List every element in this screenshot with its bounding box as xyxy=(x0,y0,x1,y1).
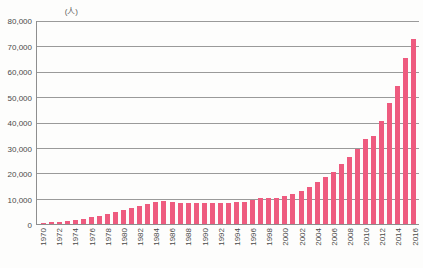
x-tick-slot: 1984 xyxy=(152,226,160,268)
bar-slot xyxy=(362,21,370,224)
bar xyxy=(411,39,416,224)
bar-slot xyxy=(79,21,87,224)
x-tick-slot: 1978 xyxy=(104,226,112,268)
bar-slot xyxy=(241,21,249,224)
x-tick-slot: 2008 xyxy=(346,226,354,268)
x-tick-slot xyxy=(209,226,217,268)
chart-page: (人) 010,00020,00030,00040,00050,00060,00… xyxy=(0,0,423,268)
bar xyxy=(234,202,239,224)
bar xyxy=(89,217,94,224)
bar xyxy=(258,198,263,224)
bar-slot xyxy=(321,21,329,224)
bar-slot xyxy=(273,21,281,224)
x-tick-slot: 2010 xyxy=(362,226,370,268)
x-tick-slot: 1980 xyxy=(120,226,128,268)
bar xyxy=(65,221,70,224)
bar-slot xyxy=(87,21,95,224)
bar xyxy=(41,223,46,224)
bar-slot xyxy=(329,21,337,224)
bar-slot xyxy=(192,21,200,224)
bar xyxy=(266,198,271,224)
x-tick-slot: 1994 xyxy=(233,226,241,268)
x-tick-slot xyxy=(79,226,87,268)
bar xyxy=(315,182,320,224)
bar xyxy=(81,219,86,224)
bar-slot xyxy=(112,21,120,224)
x-tick-slot xyxy=(403,226,411,268)
bar xyxy=(331,172,336,224)
x-tick-slot: 2006 xyxy=(330,226,338,268)
bar xyxy=(153,202,158,224)
bar-slot xyxy=(95,21,103,224)
x-tick-slot: 1982 xyxy=(136,226,144,268)
bar-slot xyxy=(337,21,345,224)
bar-slot xyxy=(184,21,192,224)
bar xyxy=(226,203,231,224)
bar-slot xyxy=(168,21,176,224)
x-tick-slot: 2000 xyxy=(281,226,289,268)
bar-slot xyxy=(289,21,297,224)
y-axis-tick-label: 0 xyxy=(0,221,32,230)
y-axis-tick-label: 40,000 xyxy=(0,119,32,128)
x-tick-slot: 1988 xyxy=(184,226,192,268)
bar-series xyxy=(37,21,419,224)
bar xyxy=(274,198,279,224)
bar-slot xyxy=(386,21,394,224)
bar xyxy=(403,58,408,224)
bar xyxy=(186,203,191,224)
bar-slot xyxy=(394,21,402,224)
bar-slot xyxy=(71,21,79,224)
x-axis: 1970197219741976197819801982198419861988… xyxy=(37,226,420,268)
bar-slot xyxy=(257,21,265,224)
bar xyxy=(371,136,376,224)
bar-slot xyxy=(104,21,112,224)
x-tick-slot: 2016 xyxy=(411,226,419,268)
y-axis: 010,00020,00030,00040,00050,00060,00070,… xyxy=(0,21,32,225)
bar xyxy=(145,204,150,224)
bar-slot xyxy=(120,21,128,224)
bar-slot xyxy=(136,21,144,224)
x-tick-slot: 1992 xyxy=(217,226,225,268)
bar xyxy=(387,103,392,224)
bar-slot xyxy=(144,21,152,224)
x-tick-slot xyxy=(306,226,314,268)
bar xyxy=(202,203,207,224)
bar xyxy=(347,157,352,224)
bar-slot xyxy=(63,21,71,224)
x-tick-slot: 2002 xyxy=(298,226,306,268)
x-tick-slot: 1998 xyxy=(265,226,273,268)
bar-slot xyxy=(402,21,410,224)
y-axis-tick-label: 60,000 xyxy=(0,68,32,77)
bar xyxy=(178,203,183,224)
bar xyxy=(363,139,368,224)
bar xyxy=(250,200,255,224)
bar-slot xyxy=(216,21,224,224)
bar xyxy=(121,210,126,224)
x-tick-slot: 1996 xyxy=(249,226,257,268)
bar-slot xyxy=(47,21,55,224)
bar xyxy=(73,220,78,224)
bar xyxy=(137,206,142,224)
plot-area: 010,00020,00030,00040,00050,00060,00070,… xyxy=(36,21,419,225)
y-axis-tick-label: 20,000 xyxy=(0,170,32,179)
bar-slot xyxy=(353,21,361,224)
bar xyxy=(57,222,62,224)
bar-slot xyxy=(233,21,241,224)
x-tick-slot: 2014 xyxy=(394,226,402,268)
bar xyxy=(161,201,166,224)
bar-slot xyxy=(55,21,63,224)
x-tick-slot: 1990 xyxy=(201,226,209,268)
bar xyxy=(290,194,295,224)
bar xyxy=(194,203,199,224)
bar-slot xyxy=(160,21,168,224)
bar xyxy=(129,208,134,224)
bar-slot xyxy=(39,21,47,224)
bar-slot xyxy=(313,21,321,224)
bar xyxy=(339,164,344,224)
bar xyxy=(282,196,287,224)
x-tick-slot xyxy=(192,226,200,268)
bar xyxy=(355,149,360,224)
x-tick-slot: 1974 xyxy=(71,226,79,268)
bar xyxy=(242,202,247,224)
bar xyxy=(299,191,304,224)
